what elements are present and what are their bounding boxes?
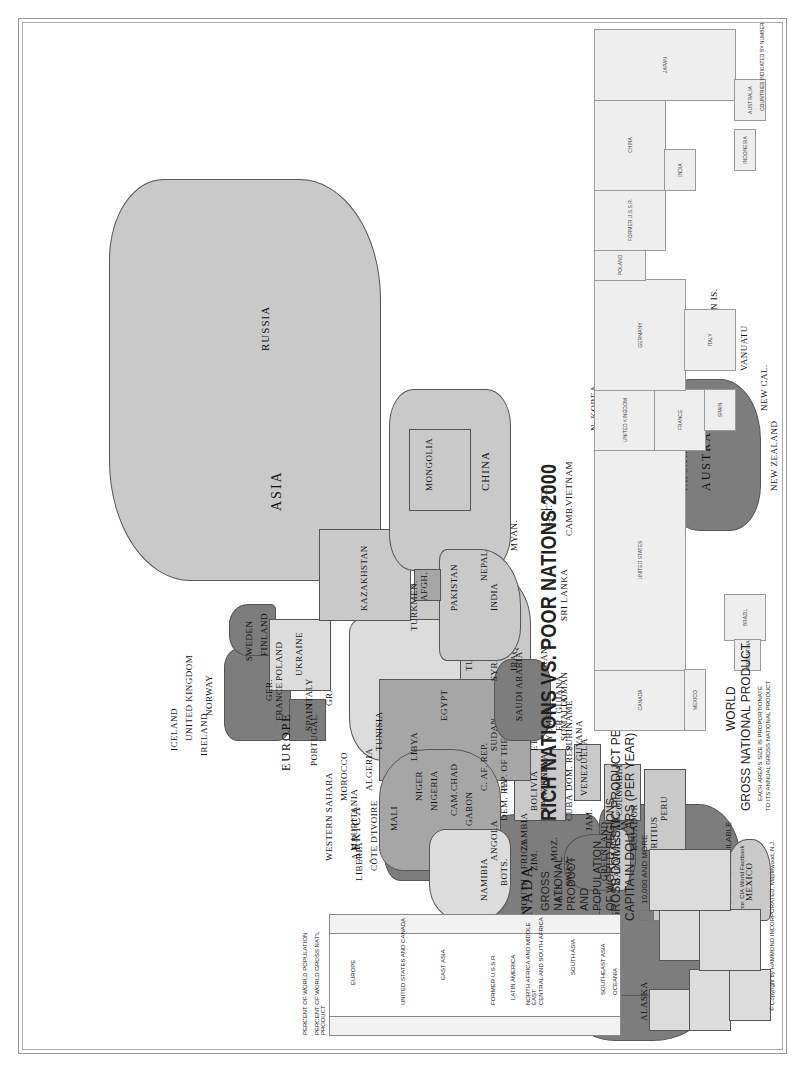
label-tunisia: TUNISIA (374, 712, 384, 752)
carto-france: FRANCE (654, 389, 706, 451)
label-south-africa: SOUTH AFRICA (519, 840, 529, 911)
label-norway: NORWAY (204, 675, 214, 716)
label-morocco: MOROCCO (339, 752, 349, 801)
region-label-us-canada: UNITED STATES AND CANADA (400, 918, 406, 1005)
label-nigeria: NIGERIA (429, 771, 439, 812)
label-finland: FINLAND (259, 613, 269, 656)
numbered-country-list: COUNTRIES INDICATED BY NUMBER (759, 23, 765, 111)
region-label-former-ussr: FORMER U.S.S.R. (490, 954, 496, 1005)
region-label-europe: EUROPE (350, 960, 356, 985)
carto-germany: GERMANY (594, 279, 686, 391)
region-label-c-s-africa: CENTRAL AND SOUTH AFRICA (538, 917, 544, 1005)
label-europe: EUROPE (279, 712, 294, 771)
carto-indonesia: INDONESIA (734, 129, 756, 171)
label-mali: MALI (389, 806, 399, 831)
label-turkmen: TURKMEN. (409, 580, 419, 631)
region-label-latin-america: LATIN AMERICA (510, 955, 516, 1000)
label-c-af-rep: C. AF. REP. (479, 742, 489, 791)
region-mongolia[interactable] (409, 429, 471, 511)
label-poland: POLAND (274, 641, 284, 681)
gnp-row-label: PERCENT OF WORLD GROSS NAT'L PRODUCT (314, 915, 326, 1035)
mini-canada (649, 989, 691, 1031)
mini-europe (659, 909, 701, 961)
carto-japan: JAPAN (594, 29, 736, 101)
cartogram: CANADA UNITED STATES MEXICO BRAZIL ARGEN… (594, 31, 694, 731)
label-new-zealand: NEW ZEALAND (769, 420, 779, 491)
label-asia: ASIA (269, 470, 285, 511)
region-label-southeast-asia: SOUTHEAST ASIA (600, 943, 606, 995)
page-title: RICH NATIONS VS. POOR NATIONS 2000 (536, 464, 562, 821)
label-guyana: GUYANA (574, 720, 584, 761)
copyright: © Copyright by HAMMOND INCORPORATED, Map… (769, 840, 775, 1011)
region-label-oceania: OCEANIA (612, 968, 618, 995)
label-germany: GER. (264, 679, 274, 701)
label-afgh: AFGH. (419, 572, 429, 601)
label-iceland: ICELAND (169, 708, 179, 751)
carto-india: INDIA (664, 149, 696, 191)
carto-spain: SPAIN (704, 389, 736, 431)
carto-italy: ITALY (684, 309, 736, 371)
label-myan: MYAN. (509, 520, 519, 551)
cartogram-title-line1: WORLD (724, 686, 738, 731)
label-india: INDIA (489, 583, 499, 611)
carto-poland: POLAND (594, 249, 646, 281)
regions-mini-map (629, 841, 779, 1031)
label-uk: UNITED KINGDOM (184, 655, 194, 741)
label-gr: GR. (324, 690, 334, 706)
label-pakistan: PAKISTAN (449, 564, 459, 611)
mini-africa (699, 909, 761, 971)
label-cam: CAM. (449, 791, 459, 816)
label-vanuatu: VANUATU (739, 325, 749, 371)
region-russia[interactable] (109, 179, 381, 581)
carto-mexico: MEXICO (684, 669, 706, 731)
label-angola: ANGOLA (489, 820, 499, 861)
carto-former-ussr: FORMER U.S.S.R. (594, 189, 666, 251)
label-nepal: NEPAL (479, 550, 489, 581)
carto-united-states: UNITED STATES (594, 449, 686, 671)
pop-bar (330, 915, 620, 934)
mini-asia (649, 849, 731, 911)
label-libya: LIBYA (409, 732, 419, 761)
gnp-chart-title: GROSS NATIONAL PRODUCT AND POPULATION OF… (539, 798, 617, 911)
gnp-bar (330, 1016, 620, 1035)
label-mongolia: MONGOLIA (424, 438, 434, 491)
mini-united-states (689, 969, 731, 1031)
pop-row-label: PERCENT OF WORLD POPULATION (302, 915, 308, 1035)
label-russia: RUSSIA (259, 306, 271, 351)
label-syr: SYR. (489, 659, 499, 681)
label-cote-divoire: CÔTE D'IVOIRE (369, 800, 379, 871)
cartogram-note-line1: EACH AREA'S SIZE IS PROPORTIONATE (757, 686, 763, 801)
label-china: CHINA (479, 451, 491, 491)
carto-canada: CANADA (594, 669, 686, 731)
region-label-n-africa-me: NORTH AFRICA AND MIDDLE EAST (525, 915, 537, 1005)
label-niger: NIGER (414, 771, 424, 801)
region-label-south-asia: SOUTH ASIA (570, 939, 576, 975)
label-namibia: NAMIBIA (479, 858, 489, 901)
cartogram-title-line2: GROSS NATIONAL PRODUCT (739, 643, 753, 811)
label-ireland: IRELAND (199, 713, 209, 756)
label-zim: ZIM. (529, 850, 539, 871)
map-canvas: ALASKA CANADA UNITED STATES MEXICO GREEN… (19, 19, 784, 1051)
region-label-east-asia: EAST ASIA (440, 949, 446, 980)
label-sweden: SWEDEN (244, 621, 254, 662)
label-liberia: LIBERIA (354, 842, 364, 881)
label-italy: ITALY (304, 678, 314, 706)
label-france: FRANCE (274, 682, 284, 721)
label-algeria: ALGERIA (364, 748, 374, 791)
gnp-population-chart: PERCENT OF WORLD GROSS NAT'L PRODUCT PER… (329, 914, 621, 1036)
label-western-sahara: WESTERN SAHARA (324, 772, 334, 861)
carto-china: CHINA (594, 99, 666, 191)
carto-united-kingdom: UNITED KINGDOM (594, 389, 656, 451)
label-kazakhstan: KAZAKHSTAN (359, 545, 369, 611)
label-new-cal: NEW CAL. (759, 364, 769, 411)
label-egypt: EGYPT (439, 690, 449, 722)
label-ukraine: UKRAINE (294, 632, 304, 676)
label-vietnam: VIETNAM (564, 461, 574, 506)
mini-latin-america (729, 969, 771, 1021)
cartogram-note-line2: TO ITS ANNUAL GROSS NATIONAL PRODUCT (765, 681, 771, 811)
label-camb: CAMB. (564, 505, 574, 536)
carto-brazil: BRAZIL (724, 594, 766, 641)
label-spain: SPAIN (304, 703, 314, 731)
label-bots: BOTS. (499, 858, 509, 886)
label-gabon: GABON (464, 791, 474, 826)
